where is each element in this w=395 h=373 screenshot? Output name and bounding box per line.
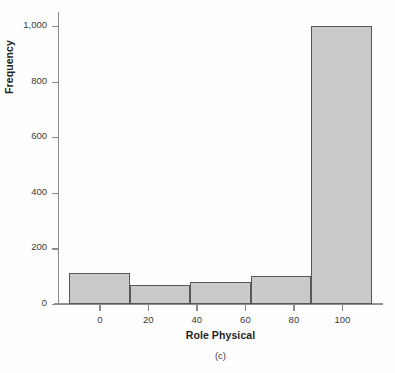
- x-axis-tick: 0: [99, 304, 100, 311]
- y-axis-tick-label: 600: [31, 130, 47, 141]
- x-axis-tick-label: 0: [97, 314, 102, 325]
- y-axis-title: Frequency: [0, 12, 18, 122]
- y-axis-tick-label: 200: [31, 241, 47, 252]
- histogram-bar: [190, 282, 251, 304]
- y-axis-tick: 400: [52, 193, 58, 194]
- y-axis-line: [58, 12, 59, 304]
- y-axis-tick: 600: [52, 137, 58, 138]
- x-axis-tick: 80: [293, 304, 294, 311]
- histogram-bar: [69, 273, 130, 304]
- x-axis-tick: 100: [342, 304, 343, 311]
- y-axis-tick: 0: [52, 304, 58, 305]
- plot-area: 02004006008001,000 020406080100: [58, 12, 383, 304]
- histogram-figure: Frequency 02004006008001,000 02040608010…: [0, 0, 395, 373]
- y-axis-tick-label: 800: [31, 75, 47, 86]
- x-axis-tick-label: 40: [192, 314, 203, 325]
- y-axis-tick: 800: [52, 82, 58, 83]
- y-axis-tick-label: 400: [31, 186, 47, 197]
- x-axis-tick-label: 80: [289, 314, 300, 325]
- y-axis-tick-label: 0: [42, 297, 47, 308]
- histogram-bar: [311, 26, 372, 304]
- x-axis-tick: 40: [196, 304, 197, 311]
- y-axis-tick-label: 1,000: [23, 19, 47, 30]
- x-axis-title: Role Physical: [58, 329, 383, 341]
- histogram-bar: [251, 276, 312, 304]
- y-axis-tick: 200: [52, 248, 58, 249]
- histogram-bar: [130, 285, 191, 304]
- x-axis-tick: 60: [245, 304, 246, 311]
- x-axis-tick-label: 20: [143, 314, 154, 325]
- x-axis-tick-label: 100: [334, 314, 350, 325]
- x-axis-tick-label: 60: [240, 314, 251, 325]
- y-axis-tick: 1,000: [52, 26, 58, 27]
- x-axis-tick: 20: [148, 304, 149, 311]
- figure-caption: (c): [58, 350, 383, 361]
